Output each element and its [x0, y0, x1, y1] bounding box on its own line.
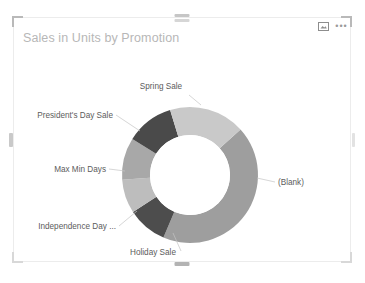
more-options-icon[interactable]: •••	[336, 21, 347, 32]
leader-line-presidents	[116, 115, 140, 131]
chart-title: Sales in Units by Promotion	[23, 31, 179, 45]
container-border-top	[13, 17, 351, 18]
data-label-independence-day: Independence Day ...	[38, 222, 116, 231]
focus-mode-icon[interactable]	[318, 21, 329, 32]
leader-line-spring	[189, 95, 201, 105]
data-label-max-min-days: Max Min Days	[54, 165, 106, 174]
more-options-dots: •••	[335, 22, 347, 31]
data-label-spring-sale: Spring Sale	[140, 82, 183, 91]
leader-line-blank	[257, 178, 275, 182]
donut-chart-plot[interactable]: Spring Sale President's Day Sale Max Min…	[13, 47, 351, 259]
donut-chart-svg[interactable]: Spring Sale President's Day Sale Max Min…	[13, 47, 351, 259]
resize-handle-top[interactable]	[175, 14, 190, 17]
data-label-presidents-day: President's Day Sale	[37, 111, 113, 120]
leader-line-independence	[119, 211, 137, 226]
data-label-holiday-sale: Holiday Sale	[130, 248, 176, 257]
resize-handle-right[interactable]	[352, 133, 355, 147]
visual-header: •••	[318, 19, 347, 33]
resize-handle-bottom[interactable]	[175, 262, 190, 266]
donut-slices[interactable]	[122, 107, 258, 243]
power-bi-visual-container[interactable]: ••• Sales in Units by Promotion	[13, 17, 351, 262]
donut-hole	[150, 135, 230, 215]
data-label-blank: (Blank)	[278, 178, 304, 187]
resize-handle-top-inner[interactable]	[175, 19, 190, 22]
